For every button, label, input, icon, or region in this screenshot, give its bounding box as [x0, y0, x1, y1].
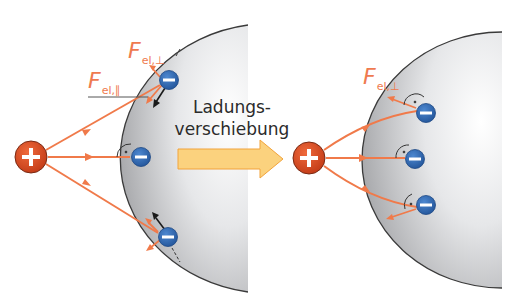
force-symbol: F	[88, 68, 101, 93]
right-positive-charge	[293, 142, 325, 174]
force-subscript: el,⊥	[142, 54, 165, 67]
left-electron-bottom	[159, 228, 178, 247]
left-label-f-parallel: Fel,∥	[88, 68, 120, 93]
diagram-canvas	[0, 0, 517, 304]
right-electron-middle	[406, 150, 425, 169]
left-electron-middle	[132, 148, 151, 167]
caption-line-1: Ladungs-	[172, 96, 292, 118]
left-electron-top	[160, 71, 179, 90]
force-symbol: F	[363, 64, 376, 89]
left-positive-charge	[15, 141, 47, 173]
force-subscript: el,∥	[102, 84, 121, 97]
charge-shift-caption: Ladungs- verschiebung	[172, 96, 292, 140]
right-electron-bottom	[417, 196, 436, 215]
left-label-f-perp: Fel,⊥	[128, 38, 165, 63]
right-electron-top	[417, 104, 436, 123]
caption-line-2: verschiebung	[172, 118, 292, 140]
right-label-f-perp: Fel,⊥	[363, 64, 400, 89]
force-subscript: el,⊥	[377, 80, 400, 93]
force-symbol: F	[128, 38, 141, 63]
